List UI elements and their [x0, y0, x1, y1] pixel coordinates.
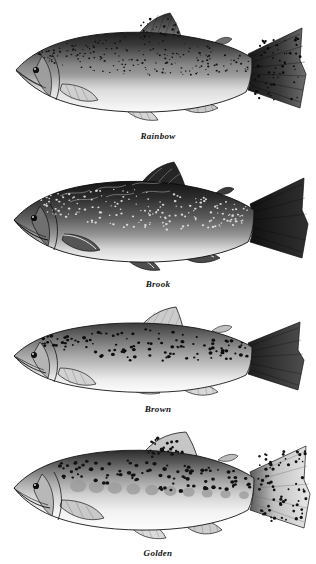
caudal-fin — [248, 28, 306, 108]
eye — [33, 483, 39, 489]
fish-label-rainbow: Rainbow — [0, 131, 316, 141]
fish-label-brown: Brown — [0, 404, 316, 414]
fish-label-brook: Brook — [0, 279, 316, 289]
caudal-fin — [250, 178, 308, 258]
fish-panel-brook: Brook — [0, 152, 316, 289]
adipose-fin — [218, 454, 238, 461]
fish-label-golden: Golden — [0, 548, 316, 558]
rainbow-trout-illustration — [0, 4, 316, 130]
eye-highlight — [32, 353, 34, 355]
eye-highlight — [34, 484, 36, 486]
caudal-fin — [250, 446, 310, 528]
fish-panel-rainbow: Rainbow — [0, 4, 316, 141]
eye-highlight — [34, 68, 36, 70]
fish-body — [14, 181, 254, 262]
golden-trout-illustration — [0, 428, 316, 546]
brown-trout-illustration — [0, 300, 316, 404]
lateral-band — [16, 62, 256, 80]
fish-panel-brown: Brown — [0, 300, 316, 414]
adipose-fin — [212, 325, 232, 332]
brook-trout-illustration — [0, 152, 316, 278]
eye-highlight — [32, 216, 34, 218]
eye — [31, 215, 37, 221]
caudal-fin — [248, 322, 304, 390]
eye — [33, 67, 39, 73]
trout-identification-plate: Rainbow — [0, 0, 316, 564]
eye — [31, 352, 37, 358]
fish-panel-golden: Golden — [0, 428, 316, 558]
